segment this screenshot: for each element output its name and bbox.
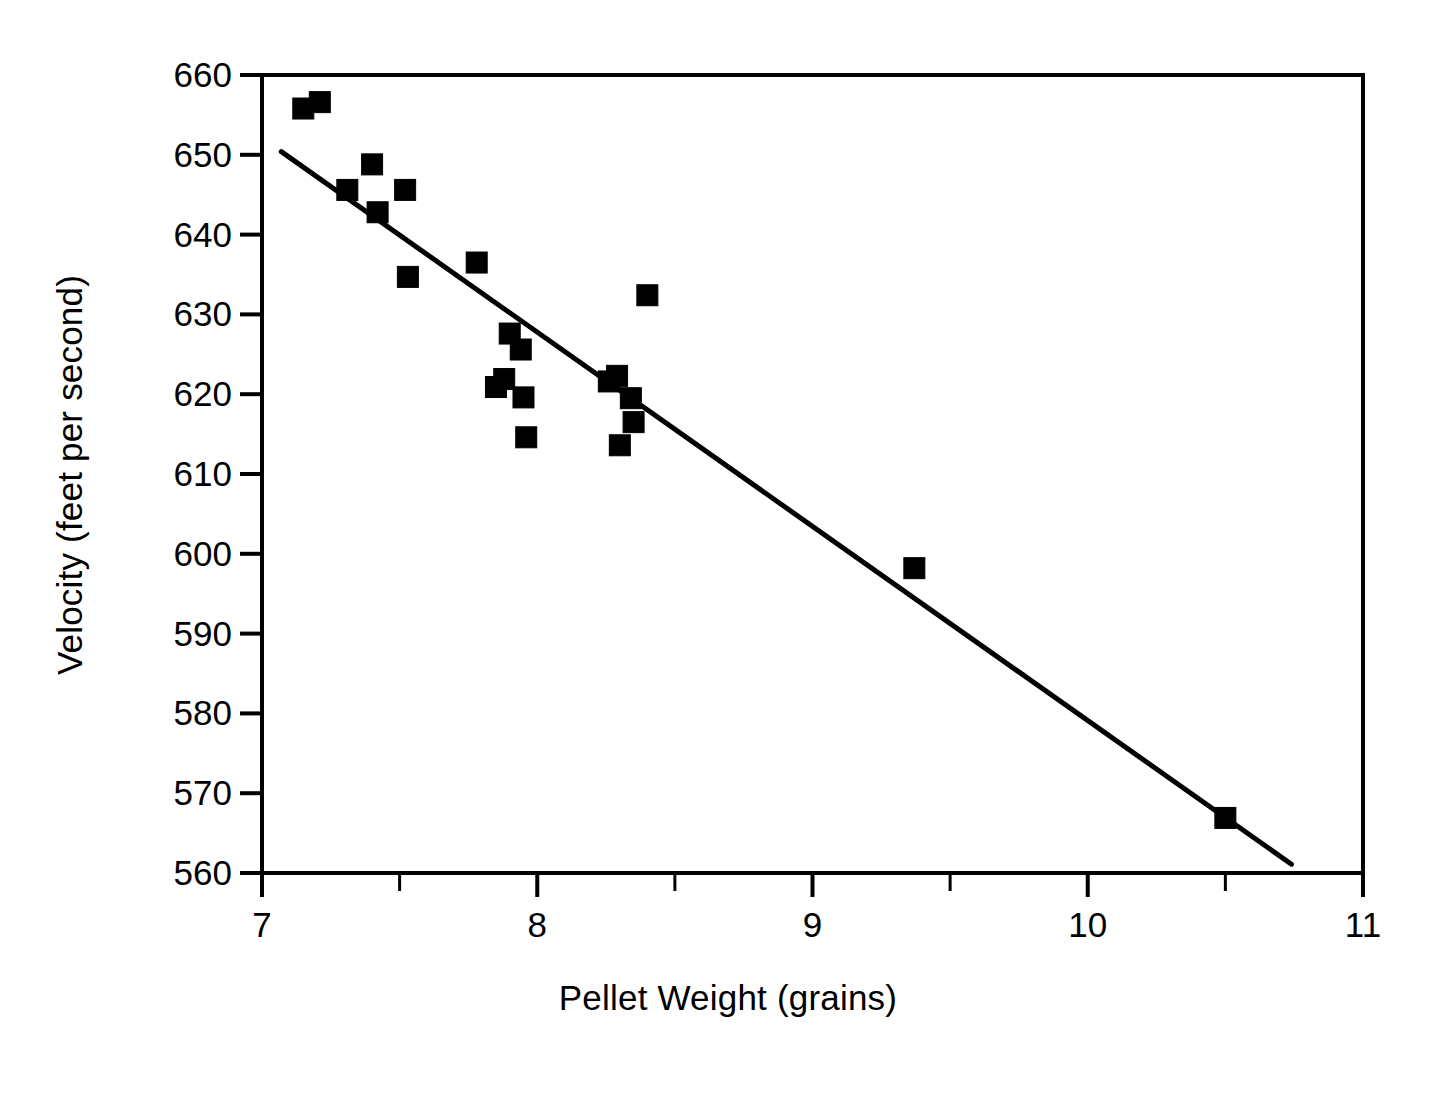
data-point-marker	[362, 154, 383, 175]
data-point-marker	[395, 179, 416, 200]
x-tick-label: 10	[1068, 905, 1107, 945]
x-tick-label: 8	[528, 905, 547, 945]
x-axis-tick-marks	[262, 873, 1363, 897]
data-point-marker	[337, 179, 358, 200]
trend-line	[281, 152, 1291, 865]
data-point-marker	[367, 202, 388, 223]
data-point-marker	[466, 252, 487, 273]
data-point-marker	[309, 92, 330, 113]
data-point-marker	[513, 387, 534, 408]
data-point-marker	[637, 285, 658, 306]
axis-frame	[262, 75, 1363, 873]
y-axis-tick-marks	[240, 75, 262, 873]
data-point-marker	[607, 365, 628, 386]
data-points-group	[293, 92, 1236, 829]
x-tick-label: 7	[252, 905, 271, 945]
data-point-marker	[494, 369, 515, 390]
data-point-marker	[620, 388, 641, 409]
data-point-marker	[623, 412, 644, 433]
data-point-marker	[510, 339, 531, 360]
y-axis-title: Velocity (feet per second)	[50, 75, 90, 875]
data-point-marker	[609, 435, 630, 456]
x-axis-title: Pellet Weight (grains)	[0, 978, 1456, 1018]
x-tick-label: 9	[803, 905, 822, 945]
y-axis-title-container: Velocity (feet per second)	[0, 0, 120, 950]
data-point-marker	[516, 427, 537, 448]
x-tick-label: 11	[1345, 905, 1381, 945]
data-point-marker	[904, 558, 925, 579]
data-point-marker	[397, 266, 418, 287]
data-point-marker	[1215, 807, 1236, 828]
chart-figure: 560570580590600610620630640650660 789101…	[0, 0, 1456, 1099]
